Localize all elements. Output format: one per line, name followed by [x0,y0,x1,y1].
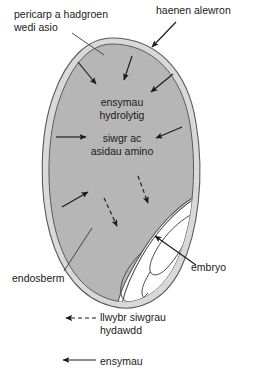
leader-arrow-aleurone [152,22,176,47]
label-pericarp-seed-coat: pericarp a hadgroen wedi asio [14,8,108,33]
legend-label-sugar-pathway: llwybr siwgrau hydawdd [100,311,166,336]
endosperm-enzymes-text: ensymau hydrolytig [77,96,167,122]
label-embryo: embryo [191,261,226,274]
legend-markers-group [63,318,96,360]
label-endosperm: endosberm [12,272,65,285]
endosperm-sugars-text: siwgr ac asidau amino [72,132,172,158]
label-aleurone-layer: haenen alewron [156,4,231,17]
legend-label-enzymes: ensymau [100,355,143,368]
seed-cross-section-diagram: ensymau hydrolytig siwgr ac asidau amino… [0,0,255,382]
